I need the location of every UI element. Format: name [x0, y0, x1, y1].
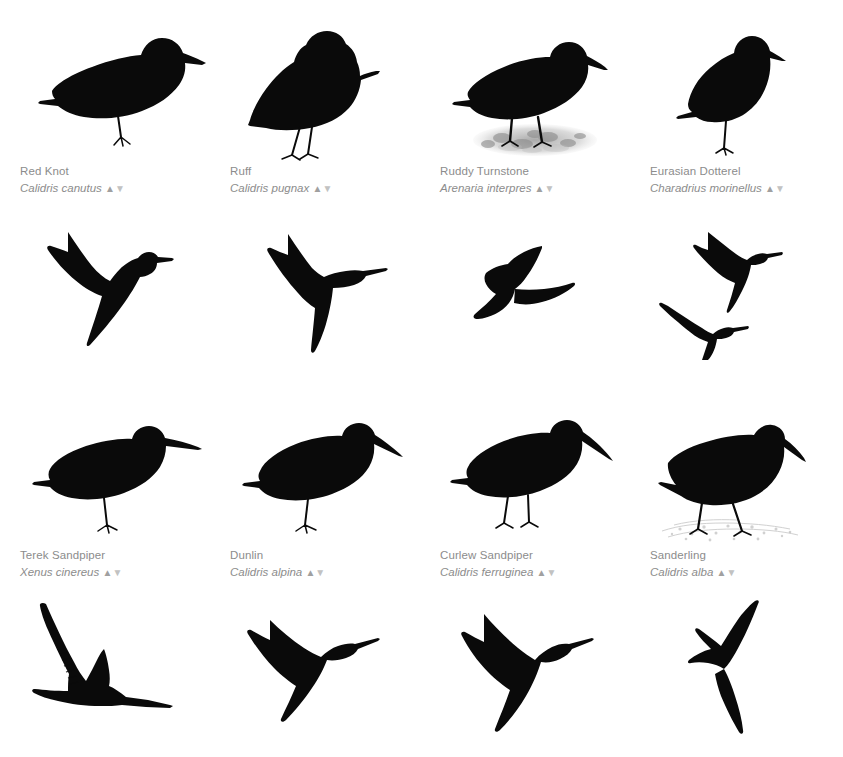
- scientific-name-label: Calidris alba: [650, 566, 713, 578]
- scientific-name-label: Charadrius morinellus: [650, 182, 762, 194]
- scientific-name-line: Charadrius morinellus ▲▼: [650, 181, 843, 197]
- sort-down-icon[interactable]: ▼: [546, 567, 556, 578]
- sort-up-icon[interactable]: ▲: [105, 183, 115, 194]
- caption-ruff: Ruff Calidris pugnax ▲▼: [230, 164, 430, 196]
- eurasian-dotterel-flying-pair-icon: [640, 210, 843, 360]
- flying-silhouette-red-knot: [10, 210, 220, 360]
- caption-eurasian-dotterel: Eurasian Dotterel Charadrius morinellus …: [650, 164, 843, 196]
- standing-silhouette-dunlin: [220, 408, 430, 548]
- curlew-sandpiper-flying-icon: [430, 594, 640, 744]
- common-name-label: Ruddy Turnstone: [440, 164, 640, 180]
- sort-up-icon[interactable]: ▲: [102, 567, 112, 578]
- scientific-name-label: Calidris pugnax: [230, 182, 309, 194]
- caption-ruddy-turnstone: Ruddy Turnstone Arenaria interpres ▲▼: [440, 164, 640, 196]
- red-knot-flying-icon: [10, 210, 220, 360]
- scientific-name-label: Calidris canutus: [20, 182, 102, 194]
- species-block-dunlin[interactable]: Dunlin Calidris alpina ▲▼: [220, 408, 430, 548]
- flying-silhouette-eurasian-dotterel: [640, 210, 843, 360]
- scientific-name-line: Calidris ferruginea ▲▼: [440, 565, 640, 581]
- scientific-name-label: Calidris ferruginea: [440, 566, 533, 578]
- common-name-label: Dunlin: [230, 548, 430, 564]
- bird-silhouette-gallery: Red Knot Calidris canutus ▲▼: [0, 0, 843, 757]
- caption-red-knot: Red Knot Calidris canutus ▲▼: [20, 164, 220, 196]
- ruff-flying-icon: [220, 210, 430, 360]
- species-block-eurasian-dotterel[interactable]: Eurasian Dotterel Charadrius morinellus …: [640, 14, 843, 164]
- species-block-sanderling[interactable]: Sanderling Calidris alba ▲▼: [640, 408, 843, 548]
- sort-up-icon[interactable]: ▲: [537, 567, 547, 578]
- scientific-name-line: Calidris alpina ▲▼: [230, 565, 430, 581]
- common-name-label: Curlew Sandpiper: [440, 548, 640, 564]
- standing-silhouette-terek-sandpiper: [10, 408, 220, 548]
- sort-up-icon[interactable]: ▲: [305, 567, 315, 578]
- scientific-name-line: Calidris alba ▲▼: [650, 565, 843, 581]
- species-block-curlew-sandpiper[interactable]: Curlew Sandpiper Calidris ferruginea ▲▼: [430, 408, 640, 548]
- scientific-name-line: Arenaria interpres ▲▼: [440, 181, 640, 197]
- common-name-label: Eurasian Dotterel: [650, 164, 843, 180]
- eurasian-dotterel-standing-icon: [640, 14, 843, 164]
- flying-silhouette-dunlin: [220, 594, 430, 744]
- dunlin-standing-icon: [220, 408, 430, 548]
- standing-silhouette-sanderling: [640, 408, 843, 548]
- standing-silhouette-ruff: [220, 14, 430, 164]
- standing-silhouette-ruddy-turnstone: [430, 14, 640, 164]
- curlew-sandpiper-standing-icon: [430, 408, 640, 548]
- flying-silhouette-ruff: [220, 210, 430, 360]
- sort-down-icon[interactable]: ▼: [726, 567, 736, 578]
- flying-silhouette-ruddy-turnstone: [430, 210, 640, 360]
- scientific-name-line: Xenus cinereus ▲▼: [20, 565, 220, 581]
- common-name-label: Ruff: [230, 164, 430, 180]
- ruff-standing-icon: [220, 14, 430, 164]
- caption-dunlin: Dunlin Calidris alpina ▲▼: [230, 548, 430, 580]
- sort-up-icon[interactable]: ▲: [312, 183, 322, 194]
- standing-silhouette-red-knot: [10, 14, 220, 164]
- terek-sandpiper-flying-icon: [10, 594, 220, 744]
- scientific-name-label: Calidris alpina: [230, 566, 302, 578]
- flying-silhouette-sanderling: [640, 594, 843, 744]
- species-block-ruddy-turnstone[interactable]: Ruddy Turnstone Arenaria interpres ▲▼: [430, 14, 640, 164]
- standing-silhouette-curlew-sandpiper: [430, 408, 640, 548]
- species-block-terek-sandpiper[interactable]: Terek Sandpiper Xenus cinereus ▲▼: [10, 408, 220, 548]
- sort-down-icon[interactable]: ▼: [315, 567, 325, 578]
- flying-silhouette-terek-sandpiper: [10, 594, 220, 744]
- sanderling-standing-icon: [640, 408, 843, 548]
- dunlin-flying-icon: [220, 594, 430, 744]
- scientific-name-label: Xenus cinereus: [20, 566, 99, 578]
- dotterel-bird-upper: [693, 232, 783, 313]
- common-name-label: Terek Sandpiper: [20, 548, 220, 564]
- caption-curlew-sandpiper: Curlew Sandpiper Calidris ferruginea ▲▼: [440, 548, 640, 580]
- red-knot-standing-icon: [10, 14, 220, 164]
- species-block-ruff[interactable]: Ruff Calidris pugnax ▲▼: [220, 14, 430, 164]
- ruddy-turnstone-standing-icon: [430, 14, 640, 164]
- sort-up-icon[interactable]: ▲: [716, 567, 726, 578]
- caption-terek-sandpiper: Terek Sandpiper Xenus cinereus ▲▼: [20, 548, 220, 580]
- sort-up-icon[interactable]: ▲: [535, 183, 545, 194]
- scientific-name-label: Arenaria interpres: [440, 182, 531, 194]
- sort-down-icon[interactable]: ▼: [115, 183, 125, 194]
- terek-sandpiper-standing-icon: [10, 408, 220, 548]
- caption-sanderling: Sanderling Calidris alba ▲▼: [650, 548, 843, 580]
- common-name-label: Sanderling: [650, 548, 843, 564]
- sort-down-icon[interactable]: ▼: [545, 183, 555, 194]
- dotterel-bird-lower: [659, 303, 749, 360]
- sort-down-icon[interactable]: ▼: [775, 183, 785, 194]
- sort-down-icon[interactable]: ▼: [322, 183, 332, 194]
- common-name-label: Red Knot: [20, 164, 220, 180]
- sort-down-icon[interactable]: ▼: [112, 567, 122, 578]
- flying-silhouette-curlew-sandpiper: [430, 594, 640, 744]
- sanderling-flying-icon: [640, 594, 843, 744]
- standing-silhouette-eurasian-dotterel: [640, 14, 843, 164]
- scientific-name-line: Calidris pugnax ▲▼: [230, 181, 430, 197]
- species-block-red-knot[interactable]: Red Knot Calidris canutus ▲▼: [10, 14, 220, 164]
- ruddy-turnstone-flying-icon: [430, 210, 640, 360]
- sort-up-icon[interactable]: ▲: [765, 183, 775, 194]
- scientific-name-line: Calidris canutus ▲▼: [20, 181, 220, 197]
